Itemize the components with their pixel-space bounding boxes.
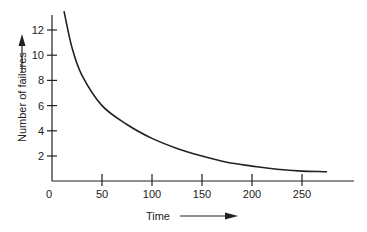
origin-label: 0 <box>46 188 52 200</box>
x-tick-label: 250 <box>293 188 311 200</box>
x-ticks: 50100150200250 <box>96 174 311 200</box>
right-arrow-icon <box>225 213 238 220</box>
failure-curve-chart: 24681012 50100150200250 0 Number of fail… <box>0 0 367 232</box>
y-tick-label: 8 <box>38 74 44 86</box>
y-tick-label: 10 <box>32 49 44 61</box>
failure-curve <box>64 11 327 172</box>
x-axis-label: Time <box>146 210 170 222</box>
y-tick-label: 2 <box>38 150 44 162</box>
y-ticks: 24681012 <box>32 24 57 162</box>
x-tick-label: 100 <box>143 188 161 200</box>
y-tick-label: 6 <box>38 100 44 112</box>
x-tick-label: 200 <box>243 188 261 200</box>
x-tick-label: 50 <box>96 188 108 200</box>
x-tick-label: 150 <box>193 188 211 200</box>
y-tick-label: 4 <box>38 125 44 137</box>
y-tick-label: 12 <box>32 24 44 36</box>
up-arrow-icon <box>19 34 26 46</box>
